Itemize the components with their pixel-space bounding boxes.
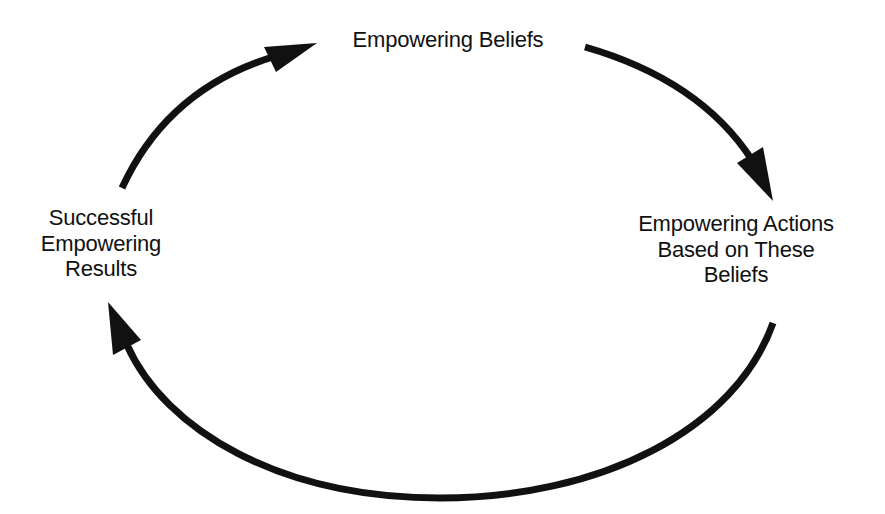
arrow-beliefs-to-actions (585, 47, 773, 201)
cycle-diagram: Empowering Beliefs Empowering Actions Ba… (0, 0, 885, 514)
node-label-line: Beliefs (596, 262, 876, 288)
arrowhead-icon (108, 302, 141, 355)
node-empowering-actions: Empowering Actions Based on These Belief… (596, 211, 876, 288)
node-label-line: Results (6, 256, 196, 282)
arrow-results-to-beliefs (122, 43, 317, 188)
node-empowering-beliefs: Empowering Beliefs (300, 27, 596, 53)
node-label-line: Based on These (596, 237, 876, 263)
node-label-line: Empowering Beliefs (300, 27, 596, 53)
arrow-actions-to-results (108, 302, 773, 498)
node-successful-results: Successful Empowering Results (6, 205, 196, 282)
node-label-line: Empowering (6, 231, 196, 257)
node-label-line: Empowering Actions (596, 211, 876, 237)
arrowhead-icon (737, 147, 773, 201)
node-label-line: Successful (6, 205, 196, 231)
